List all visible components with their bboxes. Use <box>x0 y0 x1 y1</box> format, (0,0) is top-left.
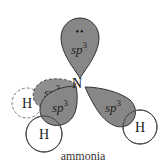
hydrogen-right-label: H <box>135 120 145 135</box>
lone-pair-dots: •• <box>75 26 84 37</box>
hydrogen-front-left-label: H <box>39 127 49 142</box>
nitrogen-atom-label: N <box>72 76 82 91</box>
hydrogen-back-left-label: H <box>22 96 32 111</box>
ammonia-orbital-diagram: H sp3 sp3 H sp3 H •• sp3 N ammonia <box>0 0 166 167</box>
diagram-caption: ammonia <box>61 149 106 163</box>
orbital-top: •• sp3 <box>61 18 99 78</box>
orbital-right: sp3 <box>85 87 135 127</box>
